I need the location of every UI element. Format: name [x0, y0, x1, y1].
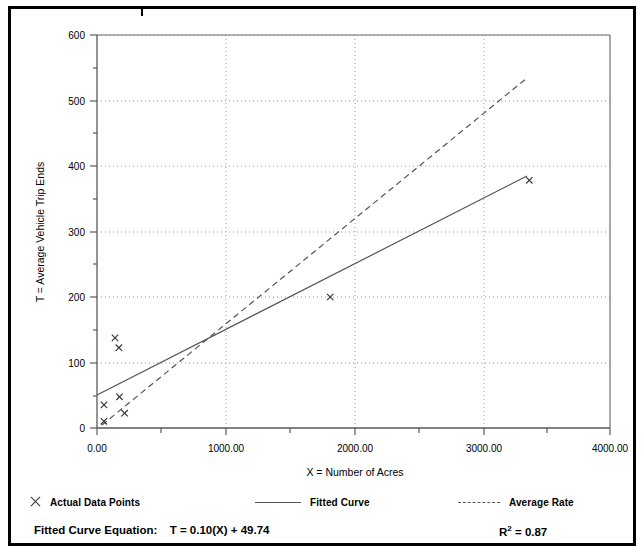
y-gridlines	[97, 35, 610, 363]
x-axis-title: X = Number of Acres	[306, 466, 403, 478]
y-tick-label: 500	[68, 96, 85, 107]
legend-item-fitted-curve: Fitted Curve	[255, 492, 370, 512]
equation-label: Fitted Curve Equation:	[34, 524, 157, 536]
data-point	[116, 345, 122, 351]
average-rate-line	[102, 78, 527, 425]
fitted-curve-line	[97, 176, 527, 395]
x-marker-icon	[29, 496, 41, 508]
legend-item-actual-data-points: Actual Data Points	[29, 492, 140, 512]
legend-label: Average Rate	[509, 497, 574, 508]
y-tick-label: 400	[68, 161, 85, 172]
r-squared-value: R2 = 0.87	[499, 524, 547, 538]
data-point	[121, 410, 127, 416]
r-squared-exponent: 2	[507, 524, 511, 533]
chart-page: 600 500 400 300 200 100 0 0.00 1000.00 2…	[0, 0, 644, 554]
y-axis-title: T = Average Vehicle Trip Ends	[34, 162, 46, 303]
y-tick-label: 300	[68, 227, 85, 238]
x-tick-label: 0.00	[87, 443, 107, 454]
x-tick-label: 1000.00	[208, 443, 245, 454]
y-tick-label: 100	[68, 358, 85, 369]
scatter-plot: 600 500 400 300 200 100 0 0.00 1000.00 2…	[0, 0, 644, 554]
plot-container: 600 500 400 300 200 100 0 0.00 1000.00 2…	[0, 0, 644, 554]
y-tick-label: 200	[68, 292, 85, 303]
data-point	[112, 335, 118, 341]
y-tick-label: 0	[79, 423, 85, 434]
chart-legend: Actual Data Points Fitted Curve Average …	[11, 492, 633, 518]
data-point	[116, 394, 122, 400]
r-squared-number: = 0.87	[515, 526, 547, 538]
x-tick-labels: 0.00 1000.00 2000.00 3000.00 4000.00	[87, 443, 628, 454]
solid-line-icon	[255, 502, 301, 503]
x-tick-label: 4000.00	[592, 443, 629, 454]
legend-label: Actual Data Points	[50, 497, 140, 508]
data-point	[101, 402, 107, 408]
x-tick-label: 3000.00	[466, 443, 503, 454]
data-points	[101, 177, 533, 424]
x-axis-ticks	[97, 428, 610, 435]
y-tick-label: 600	[68, 30, 85, 41]
equation-expression: T = 0.10(X) + 49.74	[170, 524, 270, 536]
y-axis-ticks	[90, 35, 97, 428]
equation-footer: Fitted Curve Equation: T = 0.10(X) + 49.…	[11, 521, 633, 545]
y-tick-labels: 600 500 400 300 200 100 0	[68, 30, 85, 434]
data-point	[327, 294, 333, 300]
data-point	[526, 177, 532, 183]
legend-item-average-rate: Average Rate	[458, 492, 574, 512]
fitted-curve-equation: Fitted Curve Equation: T = 0.10(X) + 49.…	[34, 524, 269, 536]
x-tick-label: 2000.00	[337, 443, 374, 454]
legend-label: Fitted Curve	[310, 497, 370, 508]
dashed-line-icon	[458, 502, 500, 503]
